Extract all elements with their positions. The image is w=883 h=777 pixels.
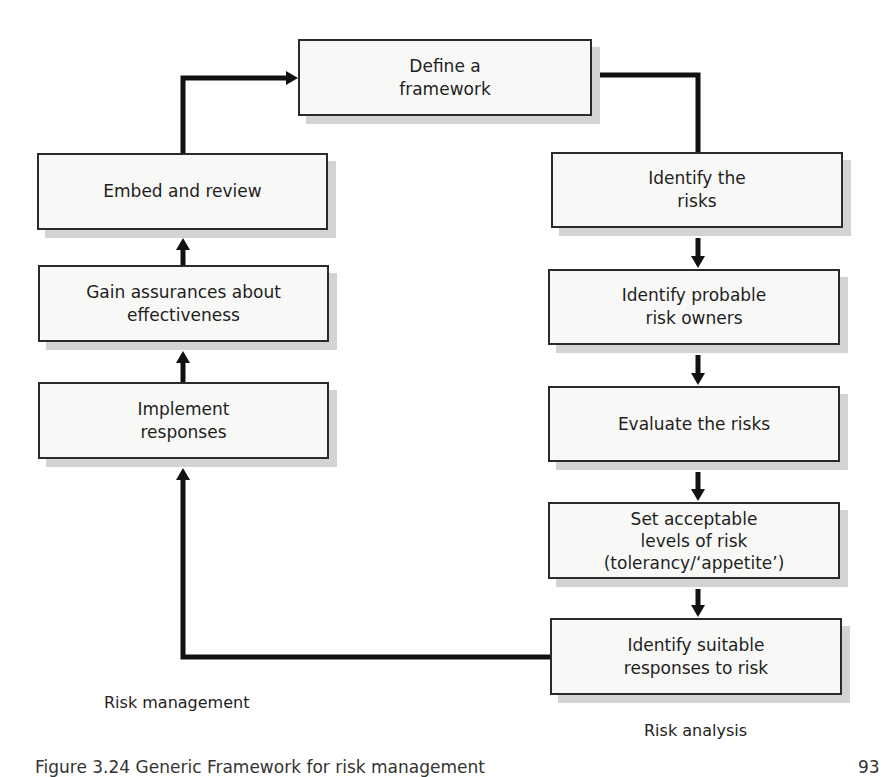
node-identify-risks: Identify the risks bbox=[551, 152, 843, 228]
edge-embed-to-define-arrowhead bbox=[286, 71, 298, 85]
page-number: 93 bbox=[858, 757, 880, 777]
edge-identify-risks-to-owners-arrowhead bbox=[691, 256, 705, 268]
node-identify-responses: Identify suitable responses to risk bbox=[550, 618, 842, 695]
node-label: Define a framework bbox=[399, 55, 491, 101]
edge-responses-to-implement-arrowhead bbox=[176, 468, 190, 480]
edge-set-levels-to-responses-arrowhead bbox=[691, 605, 705, 617]
node-implement-responses: Implement responses bbox=[38, 382, 329, 459]
edge-responses-to-implement bbox=[183, 478, 550, 657]
node-embed-review: Embed and review bbox=[37, 153, 328, 230]
edge-owners-to-evaluate-arrowhead bbox=[691, 373, 705, 385]
node-label: Identify suitable responses to risk bbox=[624, 634, 768, 680]
node-label: Evaluate the risks bbox=[618, 413, 770, 436]
section-label-risk-management: Risk management bbox=[104, 693, 249, 712]
node-label: Identify the risks bbox=[648, 167, 745, 213]
node-label: Embed and review bbox=[103, 180, 261, 203]
node-evaluate-risks: Evaluate the risks bbox=[548, 386, 840, 462]
edge-evaluate-to-set-levels-arrowhead bbox=[691, 489, 705, 501]
edge-gain-to-embed-arrowhead bbox=[176, 238, 190, 250]
node-define-framework: Define a framework bbox=[298, 39, 592, 116]
node-identify-owners: Identify probable risk owners bbox=[548, 269, 840, 345]
node-label: Identify probable risk owners bbox=[622, 284, 767, 330]
section-label-risk-analysis: Risk analysis bbox=[644, 721, 747, 740]
figure-caption: Figure 3.24 Generic Framework for risk m… bbox=[35, 757, 485, 777]
node-set-acceptable-levels: Set acceptable levels of risk (tolerancy… bbox=[548, 502, 840, 579]
edge-embed-to-define bbox=[183, 78, 287, 153]
node-label: Implement responses bbox=[137, 398, 229, 444]
node-label: Gain assurances about effectiveness bbox=[86, 281, 281, 327]
node-gain-assurances: Gain assurances about effectiveness bbox=[38, 265, 329, 342]
edge-define-to-identify-risks bbox=[600, 75, 698, 152]
edge-implement-to-gain-arrowhead bbox=[176, 351, 190, 363]
node-label: Set acceptable levels of risk (tolerancy… bbox=[604, 508, 785, 574]
